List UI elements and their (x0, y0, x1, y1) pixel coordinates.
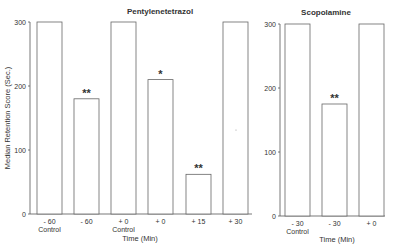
x-axis-label: Time (Min) (122, 234, 158, 243)
x-tick-label: + 15 (192, 218, 206, 225)
panel-scopolamine: Scopolamine 0 100 200 300 - 30Control**-… (264, 8, 385, 244)
bar (285, 24, 310, 216)
x-axis-label: Time (Min) (319, 235, 355, 244)
significance-marker: ** (194, 162, 203, 174)
significance-marker: ** (82, 87, 91, 99)
y-tick-label: 200 (14, 83, 26, 90)
significance-marker: * (158, 68, 163, 80)
y-ticks: 0 100 200 300 (264, 21, 280, 220)
bar (359, 24, 384, 216)
bar (148, 80, 173, 214)
x-tick-label: Control (112, 226, 135, 233)
significance-marker: ** (330, 92, 339, 104)
x-tick-label: + 0 (156, 218, 166, 225)
y-tick-label: 0 (22, 211, 26, 218)
artifact-dot (235, 129, 236, 130)
x-tick-label: Control (286, 228, 309, 235)
bar (322, 104, 347, 216)
y-tick-label: 0 (272, 213, 276, 220)
bars: - 30Control**- 30+ 0 (285, 24, 384, 235)
bar (74, 99, 99, 214)
x-tick-label: - 60 (80, 218, 92, 225)
chart-figure: Pentylenetetrazol Median Retention Score… (0, 0, 398, 250)
panel-pentylenetetrazol: Pentylenetetrazol Median Retention Score… (3, 7, 252, 243)
panel-title: Scopolamine (301, 8, 351, 17)
bar (37, 22, 62, 214)
y-tick-label: 300 (14, 19, 26, 26)
x-tick-label: + 30 (229, 218, 243, 225)
bar (186, 174, 211, 214)
x-tick-label: - 30 (328, 220, 340, 227)
x-tick-label: - 60 (43, 218, 55, 225)
bar (111, 22, 136, 214)
y-tick-label: 200 (264, 85, 276, 92)
bars: - 60Control**- 60+ 0Control*+ 0**+ 15+ 3… (37, 22, 248, 233)
x-tick-label: - 30 (291, 220, 303, 227)
x-tick-label: + 0 (119, 218, 129, 225)
panel-title: Pentylenetetrazol (127, 7, 193, 16)
y-ticks: 0 100 200 300 (14, 19, 30, 218)
x-tick-label: Control (38, 226, 61, 233)
y-axis-label: Median Retention Score (Sec.) (3, 66, 12, 169)
bar (223, 22, 248, 214)
x-tick-label: + 0 (367, 220, 377, 227)
y-tick-label: 300 (264, 21, 276, 28)
y-tick-label: 100 (14, 147, 26, 154)
y-tick-label: 100 (264, 149, 276, 156)
